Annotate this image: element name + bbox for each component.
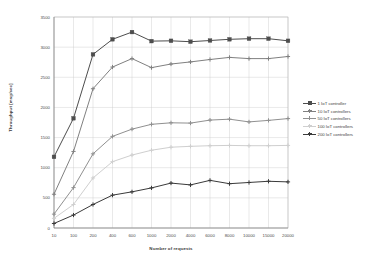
legend-item[interactable]: 100 IoT controllers xyxy=(303,123,381,131)
y-tick-label: 500 xyxy=(24,195,50,200)
legend-label: 10 IoT controllers xyxy=(316,109,351,114)
legend-item[interactable]: 50 IoT controllers xyxy=(303,115,381,123)
x-tick-label: 20000 xyxy=(275,233,301,238)
legend-item[interactable]: 10 IoT controllers xyxy=(303,108,381,116)
y-tick-label: 1500 xyxy=(24,135,50,140)
legend-label: 200 IoT controllers xyxy=(316,132,353,137)
y-tick-label: 3500 xyxy=(24,15,50,20)
y-tick-label: 2500 xyxy=(24,75,50,80)
legend-label: 100 IoT controllers xyxy=(316,124,353,129)
legend-item[interactable]: 1 IoT controller xyxy=(303,100,381,108)
y-tick-label: 3000 xyxy=(24,45,50,50)
x-axis-title: Number of requests xyxy=(54,246,288,251)
legend-label: 50 IoT controllers xyxy=(316,116,351,121)
legend-swatch-icon xyxy=(303,100,316,107)
y-tick-label: 0 xyxy=(24,226,50,231)
legend-swatch-icon xyxy=(303,131,316,138)
legend-swatch-icon xyxy=(303,108,316,115)
chart-container: Throughput [msg/sec] Number of requests … xyxy=(0,0,384,270)
y-axis-title: Throughput [msg/sec] xyxy=(8,68,13,148)
legend: 1 IoT controller10 IoT controllers50 IoT… xyxy=(303,100,381,138)
y-tick-label: 2000 xyxy=(24,105,50,110)
legend-label: 1 IoT controller xyxy=(316,101,346,106)
legend-item[interactable]: 200 IoT controllers xyxy=(303,130,381,138)
y-tick-label: 1000 xyxy=(24,165,50,170)
legend-swatch-icon xyxy=(303,115,316,122)
legend-swatch-icon xyxy=(303,123,316,130)
